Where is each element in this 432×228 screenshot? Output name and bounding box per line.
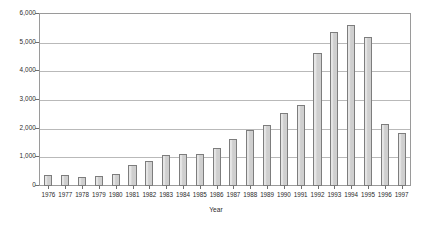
y-axis-tick-mark <box>35 99 39 100</box>
y-axis-tick-mark <box>35 42 39 43</box>
x-axis-tick-label: 1982 <box>142 191 156 198</box>
x-axis-tick-label: 1987 <box>227 191 241 198</box>
y-axis-tick-mark <box>35 70 39 71</box>
x-axis-tick-mark <box>82 186 83 189</box>
x-axis-tick-label: 1985 <box>193 191 207 198</box>
bar <box>179 154 187 186</box>
x-axis-tick-label: 1996 <box>378 191 392 198</box>
x-axis-tick-mark <box>65 186 66 189</box>
y-axis-tick-mark <box>35 13 39 14</box>
bar <box>196 154 204 186</box>
x-axis-tick-label: 1997 <box>395 191 409 198</box>
x-axis-tick-mark <box>250 186 251 189</box>
bar <box>229 139 237 186</box>
x-axis-tick-label: 1993 <box>327 191 341 198</box>
x-axis-tick-mark <box>351 186 352 189</box>
y-axis-tick-label: 2,000 <box>2 125 36 131</box>
bar <box>347 25 355 186</box>
x-axis-tick-mark <box>183 186 184 189</box>
bar <box>381 124 389 186</box>
x-axis-tick-mark <box>217 186 218 189</box>
y-axis-tick-mark <box>35 185 39 186</box>
x-axis-tick-mark <box>166 186 167 189</box>
x-axis-tick-mark <box>233 186 234 189</box>
x-axis-tick-label: 1995 <box>361 191 375 198</box>
bar-series <box>40 14 410 186</box>
bar-chart: 01,0002,0003,0004,0005,0006,000 19761977… <box>0 0 432 228</box>
bar <box>128 165 136 186</box>
x-axis-title: Year <box>0 206 432 214</box>
x-axis-tick-mark <box>402 186 403 189</box>
bar <box>78 177 86 186</box>
y-axis-tick-mark <box>35 128 39 129</box>
x-axis-tick-mark <box>149 186 150 189</box>
y-axis: 01,0002,0003,0004,0005,0006,000 <box>0 13 36 186</box>
bar <box>398 133 406 186</box>
bar <box>280 113 288 186</box>
x-axis-tick-mark <box>301 186 302 189</box>
bar <box>330 32 338 186</box>
x-axis-tick-mark <box>48 186 49 189</box>
x-axis-tick-label: 1986 <box>210 191 224 198</box>
x-axis-tick-mark <box>318 186 319 189</box>
x-axis-tick-mark <box>200 186 201 189</box>
x-axis-tick-label: 1977 <box>58 191 72 198</box>
bar <box>145 161 153 186</box>
bar <box>213 148 221 186</box>
x-axis-tick-label: 1990 <box>277 191 291 198</box>
bar <box>313 53 321 186</box>
x-axis-tick-label: 1988 <box>243 191 257 198</box>
x-axis-tick-mark <box>284 186 285 189</box>
bar <box>364 37 372 186</box>
x-axis-tick-label: 1989 <box>260 191 274 198</box>
y-axis-tick-label: 1,000 <box>2 153 36 159</box>
y-axis-tick-label: 5,000 <box>2 39 36 45</box>
x-axis-tick-label: 1994 <box>344 191 358 198</box>
bar <box>263 125 271 186</box>
x-axis-tick-label: 1992 <box>311 191 325 198</box>
x-axis-tick-label: 1991 <box>294 191 308 198</box>
x-axis-tick-mark <box>267 186 268 189</box>
bar <box>44 175 52 186</box>
y-axis-tick-label: 0 <box>2 182 36 188</box>
x-axis-tick-mark <box>368 186 369 189</box>
x-axis-tick-mark <box>99 186 100 189</box>
bar <box>112 174 120 186</box>
x-axis-tick-mark <box>334 186 335 189</box>
bar <box>162 155 170 186</box>
x-axis-tick-label: 1983 <box>159 191 173 198</box>
y-axis-tick-mark <box>35 156 39 157</box>
bar <box>61 175 69 186</box>
x-axis-tick-label: 1984 <box>176 191 190 198</box>
y-axis-tick-label: 3,000 <box>2 96 36 102</box>
x-axis-tick-mark <box>116 186 117 189</box>
bar <box>95 176 103 186</box>
x-axis-tick-label: 1979 <box>92 191 106 198</box>
x-axis-tick-label: 1978 <box>75 191 89 198</box>
x-axis-tick-mark <box>133 186 134 189</box>
y-axis-tick-label: 6,000 <box>2 10 36 16</box>
x-axis-tick-label: 1981 <box>126 191 140 198</box>
x-axis-tick-mark <box>385 186 386 189</box>
x-axis-tick-label: 1980 <box>109 191 123 198</box>
y-axis-tick-label: 4,000 <box>2 67 36 73</box>
x-axis-tick-label: 1976 <box>42 191 56 198</box>
bar <box>246 130 254 186</box>
bar <box>297 105 305 186</box>
